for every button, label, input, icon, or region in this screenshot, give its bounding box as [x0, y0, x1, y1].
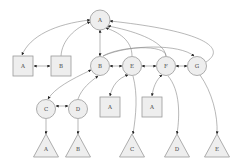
- edge-c_E-to-t_C: [133, 76, 136, 134]
- graph-canvas: AABBEFGCDAAABCDE: [0, 0, 240, 167]
- node-sq_A3[interactable]: A: [142, 97, 162, 117]
- edge-c_E-to-sq_A2: [110, 75, 128, 96]
- node-root_A[interactable]: A: [90, 10, 110, 30]
- node-t_D[interactable]: D: [165, 134, 190, 157]
- node-label: E: [215, 146, 219, 152]
- node-t_C[interactable]: C: [120, 134, 145, 157]
- node-label: D: [76, 106, 81, 112]
- node-label: C: [130, 146, 134, 152]
- node-label: B: [76, 146, 80, 152]
- node-label: B: [98, 63, 102, 69]
- edge-c_F-to-sq_A3: [152, 75, 162, 96]
- node-c_B[interactable]: B: [91, 57, 110, 76]
- edge-c_D-to-c_B: [78, 76, 98, 99]
- edge-c_F-to-t_D: [168, 76, 179, 134]
- edge-c_E-to-root_A: [106, 28, 132, 56]
- node-c_E[interactable]: E: [123, 57, 142, 76]
- node-t_B[interactable]: B: [66, 134, 91, 157]
- node-label: C: [44, 106, 48, 112]
- edge-c_G-to-root_A: [110, 21, 213, 62]
- edge-sq_B-to-root_A: [61, 22, 90, 56]
- node-label: E: [130, 63, 134, 69]
- node-label: D: [175, 146, 180, 152]
- edge-c_G-to-t_E: [200, 75, 217, 134]
- node-sq_B[interactable]: B: [51, 56, 71, 76]
- node-c_C[interactable]: C: [37, 100, 56, 119]
- node-sq_A[interactable]: A: [13, 56, 33, 76]
- node-t_A[interactable]: A: [34, 134, 59, 157]
- node-sq_A2[interactable]: A: [100, 97, 120, 117]
- edge-c_B-to-c_G: [103, 47, 194, 56]
- edge-c_F-to-c_B: [103, 48, 166, 56]
- edge-root_A-to-sq_A: [22, 20, 90, 55]
- node-label: F: [164, 63, 168, 69]
- node-c_D[interactable]: D: [69, 100, 88, 119]
- node-c_G[interactable]: G: [188, 57, 207, 76]
- node-t_E[interactable]: E: [205, 134, 230, 157]
- node-label: B: [59, 63, 63, 69]
- node-c_F[interactable]: F: [157, 57, 176, 76]
- node-label: G: [195, 63, 199, 69]
